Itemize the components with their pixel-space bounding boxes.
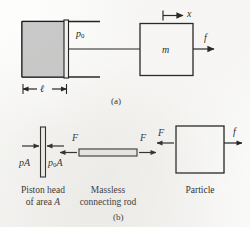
caption-panel-a: (a)	[111, 97, 121, 106]
label-force-f-particle: f	[233, 127, 236, 137]
caption-particle: Particle	[170, 186, 230, 196]
caption-rod-line1: Massless	[73, 186, 143, 196]
label-force-F-rod-right: F	[140, 133, 146, 143]
fbd-piston-head	[41, 127, 46, 177]
panel-a	[22, 11, 214, 95]
caption-panel-b: (b)	[113, 213, 124, 222]
label-force-F-particle: F	[158, 128, 164, 138]
label-length-l: ℓ	[40, 84, 44, 94]
label-mass-m: m	[162, 45, 169, 55]
fbd-connecting-rod	[79, 149, 137, 156]
piston-head	[64, 20, 69, 78]
label-force-pA: pA	[19, 158, 30, 168]
fbd-particle	[176, 126, 224, 173]
label-force-p0A: p0A	[48, 158, 63, 169]
label-gas-pressure-p0: p0	[76, 29, 84, 40]
label-force-F-rod-left: F	[72, 133, 78, 143]
label-displacement-x: x	[187, 9, 191, 19]
caption-piston-head-line1: Piston head	[4, 186, 82, 196]
gas-region-shaded	[22, 22, 65, 78]
panel-b	[22, 126, 242, 177]
label-force-f-a: f	[204, 33, 207, 43]
caption-rod-line2: connecting rod	[66, 198, 150, 208]
